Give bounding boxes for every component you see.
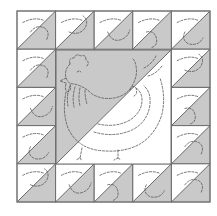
quilt-block-diagram	[0, 0, 217, 216]
border-triangle-unit	[17, 49, 56, 87]
border-triangle-unit	[94, 164, 133, 202]
border-triangle-unit	[17, 164, 56, 202]
border-triangle-unit	[171, 126, 210, 164]
border-triangle-unit	[171, 164, 210, 202]
border-triangle-unit	[17, 126, 56, 164]
border-triangle-unit	[171, 11, 210, 49]
border-triangle-unit	[17, 11, 56, 49]
border-triangle-unit	[133, 164, 172, 202]
border-triangle-unit	[171, 49, 210, 87]
border-triangle-unit	[17, 87, 56, 125]
border-triangle-unit	[56, 164, 95, 202]
border-triangle-unit	[56, 11, 95, 49]
center-hen-panel	[56, 50, 171, 164]
border-triangle-unit	[94, 11, 133, 49]
border-triangle-unit	[133, 11, 172, 49]
border-triangle-unit	[171, 87, 210, 125]
